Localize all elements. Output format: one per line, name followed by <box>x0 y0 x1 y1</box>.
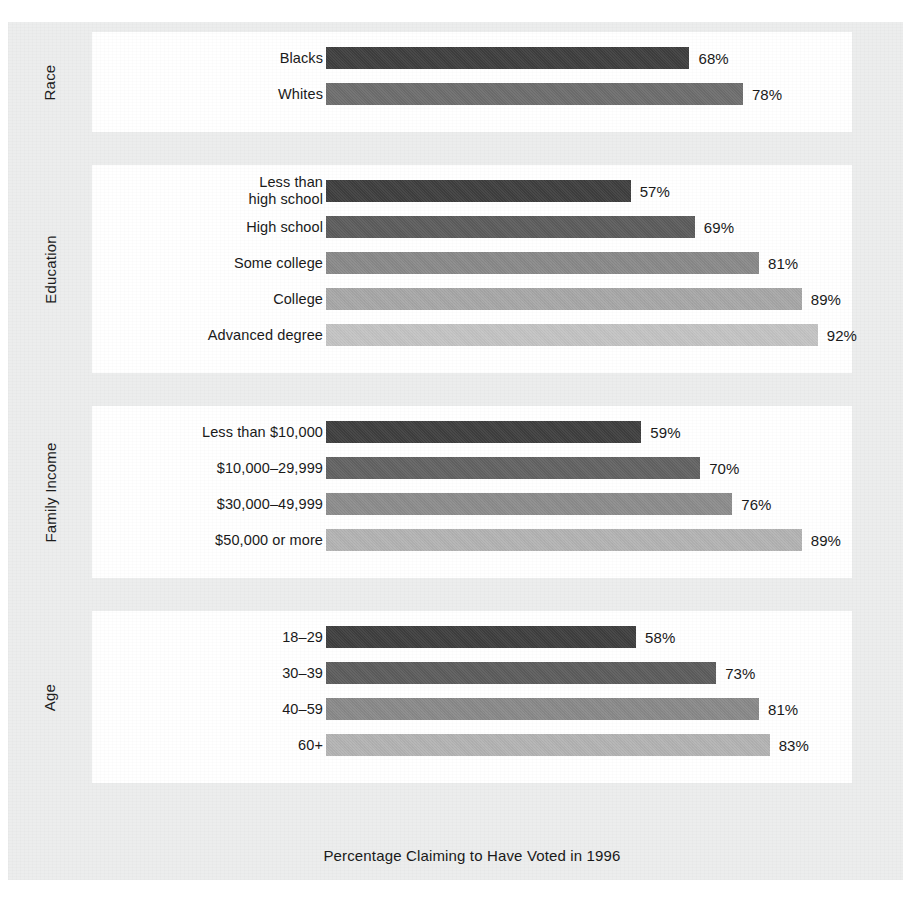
bar-category-label: 18–29 <box>282 629 323 646</box>
bar <box>326 457 700 479</box>
bar-row: $10,000–29,99970% <box>92 456 852 480</box>
bar-value-label: 58% <box>645 629 675 646</box>
bar-category-label: College <box>273 291 323 308</box>
bar-category-label: Less than high school <box>249 174 323 208</box>
bar-track: 89% <box>326 288 846 310</box>
bar-row: College89% <box>92 287 852 311</box>
bar-category-label: $30,000–49,999 <box>217 496 323 513</box>
bar-track: 69% <box>326 216 846 238</box>
bar <box>326 252 759 274</box>
bar-row: Whites78% <box>92 82 852 106</box>
bar-row: Some college81% <box>92 251 852 275</box>
bar-value-label: 83% <box>779 737 809 754</box>
chart-group-age: Age18–2958%30–3973%40–5981%60+83% <box>8 611 903 783</box>
bar-row: Blacks68% <box>92 46 852 70</box>
bar <box>326 288 802 310</box>
chart-group-family-income: Family IncomeLess than $10,00059%$10,000… <box>8 406 903 578</box>
bar-category-label: 60+ <box>298 737 323 754</box>
chart-group-education: EducationLess than high school57%High sc… <box>8 165 903 373</box>
bar-track: 59% <box>326 421 846 443</box>
bar-row: $50,000 or more89% <box>92 528 852 552</box>
bar-track: 78% <box>326 83 846 105</box>
bar-value-label: 68% <box>698 50 728 67</box>
bar <box>326 493 732 515</box>
bar-track: 81% <box>326 252 846 274</box>
group-axis-label: Education <box>8 165 92 373</box>
bar-category-label: $10,000–29,999 <box>217 460 323 477</box>
bar-category-label: $50,000 or more <box>215 532 323 549</box>
bar-category-label: 40–59 <box>282 701 323 718</box>
bar-track: 73% <box>326 662 846 684</box>
bar-value-label: 73% <box>725 665 755 682</box>
bar <box>326 83 743 105</box>
bar-row: 18–2958% <box>92 625 852 649</box>
bar-category-label: Less than $10,000 <box>202 424 323 441</box>
bar-value-label: 59% <box>650 424 680 441</box>
bar <box>326 180 631 202</box>
bar-value-label: 89% <box>811 532 841 549</box>
bar-category-label: 30–39 <box>282 665 323 682</box>
bar-category-label: Whites <box>278 86 323 103</box>
bar-row: 40–5981% <box>92 697 852 721</box>
bar-track: 58% <box>326 626 846 648</box>
bar-value-label: 57% <box>640 183 670 200</box>
group-axis-label: Race <box>8 32 92 132</box>
bar-value-label: 69% <box>704 219 734 236</box>
bar <box>326 421 641 443</box>
bar-row: High school69% <box>92 215 852 239</box>
bar <box>326 47 689 69</box>
chart-group-race: RaceBlacks68%Whites78% <box>8 32 903 132</box>
bar-value-label: 92% <box>827 327 857 344</box>
group-axis-label-text: Race <box>41 64 58 100</box>
bar-row: 60+83% <box>92 733 852 757</box>
bar <box>326 698 759 720</box>
bar-category-label: High school <box>246 219 323 236</box>
group-axis-label-text: Age <box>41 683 58 710</box>
bar-track: 68% <box>326 47 846 69</box>
bar <box>326 216 695 238</box>
bar-track: 70% <box>326 457 846 479</box>
bar-track: 89% <box>326 529 846 551</box>
bar-track: 92% <box>326 324 846 346</box>
bar <box>326 626 636 648</box>
bar-track: 57% <box>326 180 846 202</box>
bar-category-label: Some college <box>234 255 323 272</box>
bar-track: 76% <box>326 493 846 515</box>
bar-row: 30–3973% <box>92 661 852 685</box>
bar-row: Advanced degree92% <box>92 323 852 347</box>
group-axis-label: Age <box>8 611 92 783</box>
bar-value-label: 78% <box>752 86 782 103</box>
bar-row: Less than $10,00059% <box>92 420 852 444</box>
bar-category-label: Advanced degree <box>208 327 323 344</box>
bar-value-label: 81% <box>768 701 798 718</box>
group-panel: Blacks68%Whites78% <box>92 32 852 132</box>
bar-value-label: 81% <box>768 255 798 272</box>
bar-track: 81% <box>326 698 846 720</box>
bar <box>326 324 818 346</box>
group-axis-label-text: Family Income <box>42 442 59 542</box>
bar <box>326 734 770 756</box>
group-axis-label: Family Income <box>8 406 92 578</box>
bar-category-label: Blacks <box>280 50 323 67</box>
bar-value-label: 70% <box>709 460 739 477</box>
group-panel: Less than high school57%High school69%So… <box>92 165 852 373</box>
figure-frame: RaceBlacks68%Whites78%EducationLess than… <box>8 22 903 880</box>
bar-value-label: 76% <box>741 496 771 513</box>
bar <box>326 662 716 684</box>
bar-row: $30,000–49,99976% <box>92 492 852 516</box>
group-panel: Less than $10,00059%$10,000–29,99970%$30… <box>92 406 852 578</box>
bar-value-label: 89% <box>811 291 841 308</box>
group-axis-label-text: Education <box>42 235 59 304</box>
bar-track: 83% <box>326 734 846 756</box>
group-panel: 18–2958%30–3973%40–5981%60+83% <box>92 611 852 783</box>
chart-caption: Percentage Claiming to Have Voted in 199… <box>92 847 852 864</box>
bar <box>326 529 802 551</box>
bar-row: Less than high school57% <box>92 179 852 203</box>
